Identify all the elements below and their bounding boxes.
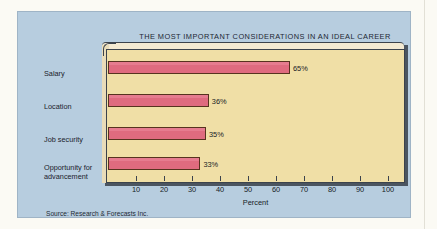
x-axis-tick bbox=[304, 176, 305, 181]
bar-highlight bbox=[109, 62, 289, 65]
bar-highlight bbox=[109, 158, 199, 161]
bar-value-location: 36% bbox=[212, 97, 227, 106]
x-axis-tick bbox=[220, 176, 221, 181]
bar-location bbox=[108, 94, 209, 107]
x-axis-title: Percent bbox=[106, 198, 405, 207]
figure-panel: THE MOST IMPORTANT CONSIDERATIONS IN AN … bbox=[18, 12, 410, 217]
x-axis-tick-label: 10 bbox=[127, 185, 145, 194]
x-axis-tick bbox=[388, 176, 389, 181]
x-axis-tick-label: 20 bbox=[155, 185, 173, 194]
category-label-salary: Salary bbox=[44, 70, 106, 79]
x-axis-tick bbox=[360, 176, 361, 181]
page-background: THE MOST IMPORTANT CONSIDERATIONS IN AN … bbox=[0, 0, 437, 229]
bar-highlight bbox=[109, 128, 205, 131]
x-axis-tick-label: 30 bbox=[183, 185, 201, 194]
bar-job-security bbox=[108, 127, 206, 140]
x-axis-tick-label: 90 bbox=[351, 185, 369, 194]
plot-3d-top-bevel bbox=[102, 42, 404, 49]
bar-opportunity-for-advancement bbox=[108, 157, 200, 170]
bar-highlight bbox=[109, 95, 208, 98]
source-note: Source: Research & Forecasts Inc. bbox=[46, 210, 148, 217]
page-gutter-line bbox=[424, 0, 425, 229]
x-axis-tick bbox=[248, 176, 249, 181]
x-axis-tick bbox=[276, 176, 277, 181]
bar-salary bbox=[108, 61, 290, 74]
bar-value-salary: 65% bbox=[293, 64, 308, 73]
category-label-job-security: Job security bbox=[44, 136, 106, 145]
category-label-location: Location bbox=[44, 103, 106, 112]
x-axis-tick-label: 40 bbox=[211, 185, 229, 194]
chart-title: THE MOST IMPORTANT CONSIDERATIONS IN AN … bbox=[120, 32, 410, 41]
x-axis-tick bbox=[332, 176, 333, 181]
x-axis-tick bbox=[136, 176, 137, 181]
x-axis-tick bbox=[164, 176, 165, 181]
x-axis-tick-label: 100 bbox=[379, 185, 397, 194]
x-axis-tick-label: 50 bbox=[239, 185, 257, 194]
x-axis-tick-label: 80 bbox=[323, 185, 341, 194]
x-axis-tick-label: 60 bbox=[267, 185, 285, 194]
category-label-opportunity-for-advancement: Opportunity for advancement bbox=[44, 164, 106, 181]
bar-value-job-security: 35% bbox=[209, 130, 224, 139]
x-axis-tick bbox=[192, 176, 193, 181]
x-axis-tick-label: 70 bbox=[295, 185, 313, 194]
bar-value-opportunity-for-advancement: 33% bbox=[203, 160, 218, 169]
